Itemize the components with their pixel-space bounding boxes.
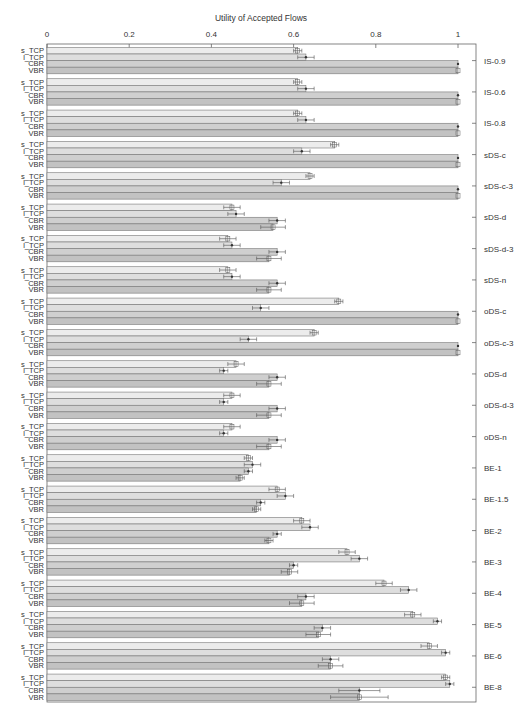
bar-cbr (47, 61, 458, 68)
mean-marker (223, 401, 225, 403)
bar-group: s_TCPl_TCPCBRVBR (21, 422, 285, 451)
bar-group: s_TCPl_TCPCBRVBR (21, 266, 285, 295)
x-tick-label: 0 (45, 30, 50, 39)
category-label: IS-0.9 (484, 57, 506, 66)
mean-marker (247, 470, 249, 472)
bar-l-tcp (47, 85, 306, 92)
bar-label: VBR (29, 348, 45, 357)
mean-marker (284, 495, 286, 497)
bar-s-tcp (47, 517, 302, 524)
bar-label: VBR (29, 661, 45, 670)
bar-s-tcp (47, 267, 228, 274)
mean-marker (223, 432, 225, 434)
category-label: BE-8 (484, 683, 502, 692)
bar-l-tcp (47, 148, 302, 155)
bar-vbr (47, 506, 257, 513)
bar-l-tcp (47, 430, 224, 437)
bar-group: s_TCPl_TCPCBRVBR (21, 140, 460, 169)
mean-marker (276, 533, 278, 535)
bar-vbr (47, 412, 269, 419)
bar-l-tcp (47, 524, 310, 531)
mean-marker (251, 463, 253, 465)
mean-marker (457, 157, 459, 159)
bar-group: s_TCPl_TCPCBRVBR (21, 109, 460, 138)
bar-l-tcp (47, 618, 437, 625)
bar-label: VBR (29, 129, 45, 138)
mean-marker (260, 307, 262, 309)
mean-marker (301, 150, 303, 152)
mean-marker (223, 369, 225, 371)
bar-label: VBR (29, 599, 45, 608)
bar-group: s_TCPl_TCPCBRVBR (21, 548, 368, 577)
bar-l-tcp (47, 555, 359, 562)
bar-label: VBR (29, 97, 45, 106)
bar-cbr (47, 186, 458, 193)
category-label: oDS-d-3 (484, 401, 514, 410)
bar-s-tcp (47, 392, 232, 399)
bar-cbr (47, 625, 322, 632)
bar-s-tcp (47, 141, 335, 148)
bar-group: s_TCPl_TCPCBRVBR (21, 172, 460, 201)
mean-marker (457, 313, 459, 315)
bar-vbr (47, 631, 318, 638)
mean-marker (457, 63, 459, 65)
bar-label: VBR (29, 442, 45, 451)
bar-s-tcp (47, 611, 413, 618)
bar-vbr (47, 475, 240, 482)
mean-marker (329, 658, 331, 660)
mean-marker (231, 244, 233, 246)
bar-vbr (47, 161, 458, 168)
mean-marker (309, 526, 311, 528)
bar-cbr (47, 92, 458, 99)
bar-s-tcp (47, 674, 446, 681)
bar-s-tcp (47, 329, 314, 336)
category-label: BE-1.5 (484, 495, 509, 504)
mean-marker (305, 87, 307, 89)
bar-s-tcp (47, 79, 298, 86)
bar-group: s_TCPl_TCPCBRVBR (21, 516, 318, 545)
mean-marker (276, 251, 278, 253)
bar-s-tcp (47, 486, 277, 493)
bar-vbr (47, 443, 269, 450)
mean-marker (231, 275, 233, 277)
category-label: BE-2 (484, 527, 502, 536)
bar-vbr (47, 694, 359, 701)
bar-l-tcp (47, 179, 281, 186)
bar-group: s_TCPl_TCPCBRVBR (21, 485, 294, 514)
category-label: BE-1 (484, 464, 502, 473)
bar-vbr (47, 381, 269, 388)
mean-marker (305, 595, 307, 597)
bar-cbr (47, 437, 277, 444)
mean-marker (449, 683, 451, 685)
mean-marker (436, 620, 438, 622)
x-tick-label: 0.2 (124, 30, 136, 39)
bar-label: VBR (29, 693, 45, 702)
mean-marker (292, 564, 294, 566)
bar-l-tcp (47, 273, 232, 280)
bar-s-tcp (47, 298, 339, 305)
mean-marker (457, 125, 459, 127)
bar-cbr (47, 405, 277, 412)
bar-label: VBR (29, 411, 45, 420)
bar-group: s_TCPl_TCPCBRVBR (21, 203, 285, 232)
mean-marker (276, 219, 278, 221)
bar-cbr (47, 593, 306, 600)
bar-label: VBR (29, 254, 45, 263)
bar-s-tcp (47, 580, 384, 587)
category-label: sDS-c-3 (484, 182, 513, 191)
bar-vbr (47, 193, 458, 200)
bar-group: s_TCPl_TCPCBRVBR (21, 297, 460, 326)
bar-vbr (47, 569, 289, 576)
bar-group: s_TCPl_TCPCBRVBR (21, 642, 450, 671)
mean-marker (280, 181, 282, 183)
category-label: sDS-n (484, 276, 506, 285)
bar-l-tcp (47, 211, 236, 218)
bar-cbr (47, 123, 458, 130)
bar-s-tcp (47, 204, 232, 211)
bar-group: s_TCPl_TCPCBRVBR (21, 234, 285, 263)
bar-cbr (47, 280, 277, 287)
bar-label: VBR (29, 160, 45, 169)
bar-cbr (47, 499, 261, 506)
bar-cbr (47, 217, 277, 224)
bar-l-tcp (47, 399, 224, 406)
